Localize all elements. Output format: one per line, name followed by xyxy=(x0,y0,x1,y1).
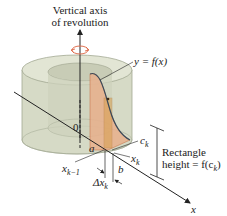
shell-method-diagram: Vertical axis of revolution y = f(x) 0 a… xyxy=(0,0,227,216)
diagram-graphics xyxy=(0,0,227,216)
axis-title-line2: of revolution xyxy=(51,16,108,28)
rectangle-height-line2: height = f(ck) xyxy=(162,158,221,172)
curve-label: y = f(x) xyxy=(134,55,167,67)
delta-xk-label: Δxk xyxy=(93,176,108,190)
axis-title-line1: Vertical axis xyxy=(53,4,108,16)
x-axis-label: x xyxy=(191,203,196,215)
ck-label: ck xyxy=(140,134,148,148)
b-label: b xyxy=(118,163,124,175)
rectangle-height-line1: Rectangle xyxy=(162,146,206,158)
xk-label: xk xyxy=(131,152,139,166)
origin-label: 0 xyxy=(73,121,79,133)
a-label: a xyxy=(89,142,95,154)
xk-minus-1-label: xk−1 xyxy=(62,162,80,176)
